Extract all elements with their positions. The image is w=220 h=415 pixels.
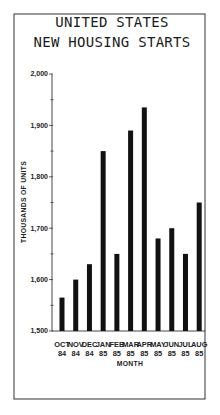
bar-aug xyxy=(197,203,202,332)
y-tick-label: 1,500 xyxy=(30,327,48,335)
bar-oct xyxy=(60,298,65,331)
bar-may xyxy=(156,238,161,331)
x-axis-labels: OCT84NOV84DEC84JAN85FEB85MAR85APR85MAY85… xyxy=(54,340,207,358)
chart-title-line-2: NEW HOUSING STARTS xyxy=(33,34,190,50)
y-axis-label: THOUSANDS OF UNITS xyxy=(20,161,27,243)
bar-apr xyxy=(142,107,147,331)
y-tick-label: 2,000 xyxy=(30,70,48,78)
x-tick-label-year: 85 xyxy=(126,349,134,358)
bar-nov xyxy=(73,280,78,331)
y-tick-label: 1,600 xyxy=(30,276,48,284)
bars xyxy=(60,107,202,331)
x-tick-label-year: 85 xyxy=(168,349,176,358)
bar-jan xyxy=(101,151,106,331)
y-tick-label: 1,800 xyxy=(30,173,48,181)
x-tick-label-year: 85 xyxy=(195,349,203,358)
housing-starts-chart: UNITED STATES NEW HOUSING STARTS THOUSAN… xyxy=(0,0,220,415)
x-tick-label-month: JUN xyxy=(164,340,179,349)
x-tick-label-year: 84 xyxy=(72,349,81,358)
x-axis-label: MONTH xyxy=(117,360,143,367)
bar-feb xyxy=(114,254,119,331)
y-tick-label: 1,700 xyxy=(30,225,48,233)
x-tick-label-month: AUG xyxy=(191,340,208,349)
chart-title-line-1: UNITED STATES xyxy=(55,14,168,30)
x-tick-label-year: 85 xyxy=(140,349,148,358)
x-tick-label-year: 85 xyxy=(113,349,121,358)
bar-dec xyxy=(87,264,92,331)
x-tick-label-year: 84 xyxy=(58,349,67,358)
bar-jul xyxy=(183,254,188,331)
x-tick-label-year: 84 xyxy=(85,349,94,358)
x-tick-label-year: 85 xyxy=(99,349,107,358)
x-tick-label-year: 85 xyxy=(181,349,189,358)
x-tick-label-month: JAN xyxy=(96,340,111,349)
y-tick-label: 1,900 xyxy=(30,122,48,130)
x-tick-label-year: 85 xyxy=(154,349,162,358)
bar-jun xyxy=(169,228,174,331)
bar-mar xyxy=(128,131,133,331)
